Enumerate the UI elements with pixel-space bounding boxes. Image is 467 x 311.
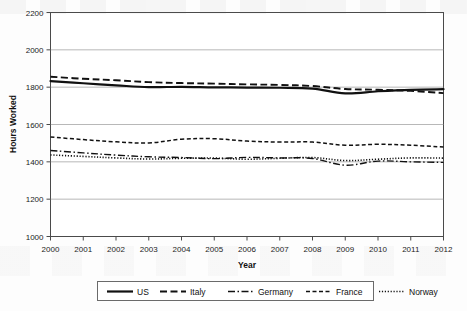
legend-label-germany: Germany <box>258 287 294 297</box>
y-axis-ticks <box>47 13 51 237</box>
y-tick-label: 1000 <box>26 233 44 242</box>
x-axis-tick-labels: 2000200120022003200420052006200720082009… <box>42 245 453 254</box>
x-axis-ticks <box>51 237 444 241</box>
legend-label-france: France <box>336 287 363 297</box>
y-tick-label: 1800 <box>26 83 44 92</box>
x-tick-label: 2012 <box>435 245 453 254</box>
legend-label-norway: Norway <box>409 287 439 297</box>
x-tick-label: 2001 <box>74 245 92 254</box>
legend-label-us: US <box>137 287 149 297</box>
chart-container: 1000120014001600180020002200 20002001200… <box>0 0 467 311</box>
x-tick-label: 2011 <box>402 245 420 254</box>
x-tick-label: 2002 <box>107 245 125 254</box>
x-tick-label: 2007 <box>271 245 289 254</box>
x-tick-label: 2005 <box>205 245 223 254</box>
x-tick-label: 2010 <box>369 245 387 254</box>
y-axis-title: Hours Worked <box>8 95 18 153</box>
line-chart: 1000120014001600180020002200 20002001200… <box>0 0 467 311</box>
x-tick-label: 2004 <box>173 245 191 254</box>
y-tick-label: 1600 <box>26 121 44 130</box>
x-tick-label: 2006 <box>238 245 256 254</box>
y-tick-label: 1200 <box>26 195 44 204</box>
legend-label-italy: Italy <box>190 287 206 297</box>
chart-legend: USItalyGermanyFranceNorway <box>98 282 439 301</box>
x-axis-title: Year <box>238 260 257 270</box>
x-tick-label: 2000 <box>42 245 60 254</box>
x-tick-label: 2009 <box>336 245 354 254</box>
y-axis-tick-labels: 1000120014001600180020002200 <box>26 9 44 242</box>
x-tick-label: 2008 <box>304 245 322 254</box>
y-tick-label: 1400 <box>26 158 44 167</box>
x-tick-label: 2003 <box>140 245 158 254</box>
y-tick-label: 2000 <box>26 46 44 55</box>
y-tick-label: 2200 <box>26 9 44 18</box>
